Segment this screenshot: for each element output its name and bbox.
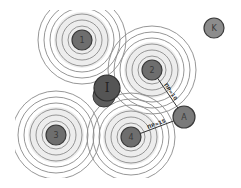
station-label: 3 [53,131,58,140]
outlier-label: K [211,24,217,33]
outlier-node[interactable]: K [204,18,224,38]
station-node[interactable]: 3 [46,125,66,145]
station-label: 1 [79,36,84,45]
target-node[interactable]: A [173,106,195,128]
station-label: 4 [128,133,133,142]
coverage-diagram: ПР=10ПР=15 1234IAK [0,0,241,188]
station-node[interactable]: 1 [72,30,92,50]
station-label: 2 [149,66,154,75]
station-node[interactable]: 4 [121,127,141,147]
target-label: A [181,113,187,122]
station-node[interactable]: 2 [142,60,162,80]
interference-label: I [105,81,110,95]
